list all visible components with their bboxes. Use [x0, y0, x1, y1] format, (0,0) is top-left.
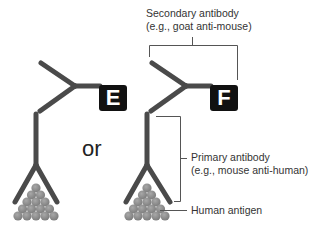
primary-antibody-example: (e.g., mouse anti-human) [191, 164, 308, 177]
secondary-antibody-bracket [150, 37, 238, 80]
primary-antibody-label: Primary antibody [191, 151, 270, 164]
label-box-f: F [210, 85, 238, 111]
left-secondary-antibody [40, 63, 100, 111]
or-connector: or [82, 136, 102, 162]
secondary-antibody-label: Secondary antibody [146, 7, 239, 20]
right-secondary-antibody [151, 63, 211, 111]
diagram-canvas [0, 0, 314, 228]
label-box-e: E [99, 85, 127, 111]
human-antigen-label: Human antigen [191, 204, 262, 217]
secondary-antibody-example: (e.g., goat anti-mouse) [146, 20, 252, 33]
